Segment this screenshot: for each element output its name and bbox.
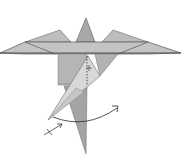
cross-mark-icon: [47, 129, 52, 135]
origami-diagram: [0, 0, 187, 163]
right-lower-flap: [95, 54, 118, 76]
left-upper-wing: [25, 30, 71, 42]
fold-direction-arrow: [44, 124, 62, 135]
head-spike: [76, 18, 95, 42]
wing-band: [0, 42, 181, 54]
right-upper-wing: [102, 30, 148, 42]
